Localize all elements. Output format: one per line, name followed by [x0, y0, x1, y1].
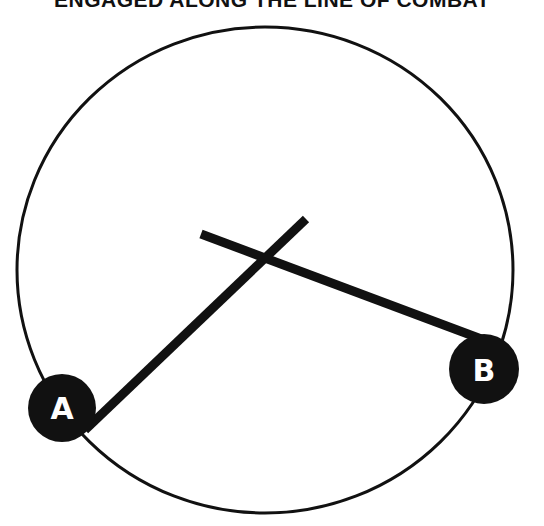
marker-b: B [449, 334, 519, 404]
line-b [201, 234, 484, 340]
combat-diagram: A B [0, 0, 544, 526]
marker-a-label: A [50, 391, 74, 426]
boundary-circle [17, 27, 513, 513]
marker-a: A [28, 374, 96, 442]
line-a [85, 219, 306, 430]
marker-b-label: B [473, 353, 496, 388]
